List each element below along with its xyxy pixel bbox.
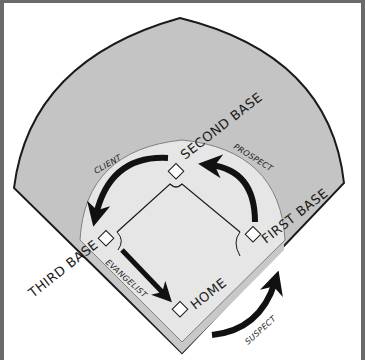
baseball-diamond-diagram: SECOND BASE FIRST BASE THIRD BASE HOME C… [0,0,365,360]
third-base-label: THIRD BASE [25,237,101,301]
